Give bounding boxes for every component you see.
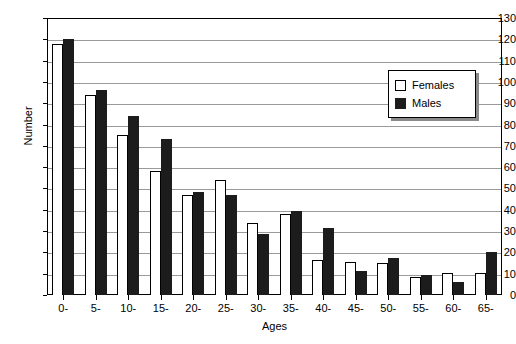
x-axis-tick-label: 0- bbox=[58, 302, 68, 314]
y-axis-tick-label: 20 bbox=[476, 246, 516, 258]
x-axis-tick-label: 5- bbox=[91, 302, 101, 314]
gridline bbox=[48, 147, 501, 148]
plot-area bbox=[47, 18, 502, 295]
x-axis-tick-mark bbox=[388, 295, 389, 300]
y-axis-tick-mark bbox=[43, 210, 47, 211]
x-axis-tick-label: 50- bbox=[380, 302, 396, 314]
gridline bbox=[48, 275, 501, 276]
y-axis-tick-label: 60 bbox=[476, 161, 516, 173]
x-axis-title: Ages bbox=[47, 320, 502, 332]
x-axis-tick-label: 10- bbox=[120, 302, 136, 314]
y-axis-tick-mark bbox=[43, 252, 47, 253]
gridline bbox=[48, 189, 501, 190]
y-axis-tick-label: 0 bbox=[476, 289, 516, 301]
x-axis-tick-mark bbox=[96, 295, 97, 300]
x-axis-tick-mark bbox=[453, 295, 454, 300]
gridline bbox=[48, 253, 501, 254]
y-axis-tick-label: 50 bbox=[476, 182, 516, 194]
gridline bbox=[48, 232, 501, 233]
page-edge bbox=[0, 338, 516, 344]
x-axis-tick-mark bbox=[258, 295, 259, 300]
legend-item-females: Females bbox=[395, 76, 469, 94]
x-axis-tick-label: 45- bbox=[348, 302, 364, 314]
y-axis-tick-label: 30 bbox=[476, 225, 516, 237]
y-axis-tick-label: 110 bbox=[476, 55, 516, 67]
x-axis-tick-mark bbox=[421, 295, 422, 300]
x-axis-tick-label: 55- bbox=[413, 302, 429, 314]
y-axis-tick-mark bbox=[43, 167, 47, 168]
gridline bbox=[48, 168, 501, 169]
x-axis-tick-mark bbox=[63, 295, 64, 300]
x-axis-tick-label: 60- bbox=[445, 302, 461, 314]
x-axis-tick-label: 40- bbox=[315, 302, 331, 314]
filled-square-icon bbox=[395, 98, 406, 109]
bar-chart: Number 0-5-10-15-20-25-30-35-40-45-50-55… bbox=[0, 0, 516, 344]
y-axis-tick-mark bbox=[43, 146, 47, 147]
x-axis-tick-label: 15- bbox=[153, 302, 169, 314]
x-axis-tick-mark bbox=[291, 295, 292, 300]
gridline bbox=[48, 62, 501, 63]
y-axis-title: Number bbox=[22, 76, 34, 176]
y-axis-tick-mark bbox=[43, 82, 47, 83]
legend-label-males: Males bbox=[412, 97, 441, 109]
y-axis-tick-label: 70 bbox=[476, 140, 516, 152]
y-axis-tick-mark bbox=[43, 231, 47, 232]
gridline bbox=[48, 126, 501, 127]
y-axis-tick-mark bbox=[43, 18, 47, 19]
x-axis-tick-mark bbox=[323, 295, 324, 300]
x-axis-tick-label: 35- bbox=[283, 302, 299, 314]
x-axis-tick-label: 30- bbox=[250, 302, 266, 314]
y-axis-tick-label: 120 bbox=[476, 33, 516, 45]
y-axis-tick-mark bbox=[43, 274, 47, 275]
y-axis-tick-label: 80 bbox=[476, 119, 516, 131]
y-axis-tick-label: 10 bbox=[476, 268, 516, 280]
gridline bbox=[48, 40, 501, 41]
y-axis-tick-mark bbox=[43, 295, 47, 296]
y-axis-tick-mark bbox=[43, 188, 47, 189]
x-axis-tick-mark bbox=[193, 295, 194, 300]
x-axis-tick-mark bbox=[128, 295, 129, 300]
y-axis-tick-mark bbox=[43, 39, 47, 40]
x-axis-tick-mark bbox=[161, 295, 162, 300]
x-axis-tick-mark bbox=[356, 295, 357, 300]
y-axis-tick-label: 40 bbox=[476, 204, 516, 216]
y-axis-tick-label: 100 bbox=[476, 76, 516, 88]
x-axis-tick-label: 65- bbox=[478, 302, 494, 314]
x-axis-tick-label: 25- bbox=[218, 302, 234, 314]
gridline bbox=[48, 211, 501, 212]
y-axis-tick-mark bbox=[43, 125, 47, 126]
y-axis-tick-label: 90 bbox=[476, 97, 516, 109]
x-axis-tick-label: 20- bbox=[185, 302, 201, 314]
y-axis-tick-mark bbox=[43, 103, 47, 104]
y-axis-tick-mark bbox=[43, 61, 47, 62]
x-axis-tick-mark bbox=[226, 295, 227, 300]
legend-label-females: Females bbox=[412, 79, 454, 91]
open-square-icon bbox=[395, 80, 406, 91]
y-axis-tick-label: 130 bbox=[476, 12, 516, 24]
chart-legend: Females Males bbox=[388, 70, 476, 118]
legend-item-males: Males bbox=[395, 94, 469, 112]
